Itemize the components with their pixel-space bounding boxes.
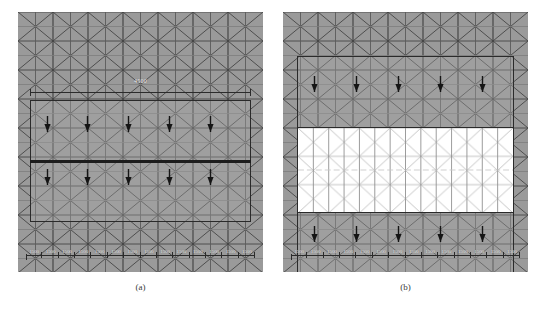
panel-b: 1500 1500 1500 1500 1500 1500 1500 1500 … [283, 12, 528, 272]
panel-caption-b: (b) [283, 282, 528, 292]
dimension-label: 1500 [422, 249, 438, 254]
dimension-label: 1500 [471, 249, 487, 254]
dimension-chain-cells-a: 1500 1500 1500 1500 1500 1500 1500 1500 … [26, 249, 255, 254]
dimension-label: 1500 [487, 249, 503, 254]
load-arrow-down [395, 76, 402, 92]
dimension-label: 1500 [389, 249, 405, 254]
region-loaded-strip-upper-b [297, 56, 514, 128]
dimension-label: 1500 [291, 249, 307, 254]
dimension-label: 1500 [190, 249, 206, 254]
load-arrow-down [207, 169, 214, 185]
dimension-chain-a: 1500 1500 1500 1500 1500 1500 1500 1500 … [26, 244, 255, 258]
dimension-label: 1500 [504, 249, 520, 254]
dimension-label-top-a: 4500 [18, 78, 263, 84]
dimension-label: 1500 [91, 249, 107, 254]
load-arrow-down [84, 169, 91, 185]
load-arrow-down [84, 116, 91, 132]
dimension-label: 1500 [222, 249, 238, 254]
load-arrow-down [437, 226, 444, 242]
dimension-label: 1500 [206, 249, 222, 254]
dimension-label: 1500 [406, 249, 422, 254]
dimension-chain-cells-b: 1500 1500 1500 1500 1500 1500 1500 1500 … [291, 249, 520, 254]
load-arrow-down [125, 169, 132, 185]
region-highlighted-core-b [297, 127, 514, 213]
load-arrow-down [353, 226, 360, 242]
dimension-line-top-a [30, 92, 251, 93]
load-arrow-down [437, 76, 444, 92]
load-arrow-down [44, 116, 51, 132]
dimension-label: 1500 [307, 249, 323, 254]
dimension-label: 1500 [141, 249, 157, 254]
load-arrow-down [353, 76, 360, 92]
dimension-label: 1500 [124, 249, 140, 254]
dimension-label: 1500 [373, 249, 389, 254]
dimension-label: 1500 [157, 249, 173, 254]
dimension-label: 1500 [356, 249, 372, 254]
load-arrow-down [166, 169, 173, 185]
dimension-label: 1500 [173, 249, 189, 254]
dimension-chain-line [291, 255, 520, 256]
dimension-label: 1500 [42, 249, 58, 254]
load-arrow-down [395, 226, 402, 242]
panel-caption-a: (a) [18, 282, 263, 292]
dimension-label: 1500 [455, 249, 471, 254]
load-arrow-down [207, 116, 214, 132]
region-loaded-strip-lower-b [297, 212, 514, 272]
region-divider-a [30, 160, 251, 163]
dimension-label: 1500 [239, 249, 255, 254]
load-arrow-down [44, 169, 51, 185]
dimension-label: 1500 [108, 249, 124, 254]
figure-container: 4500 [0, 0, 538, 319]
core-mesh-lines-b [298, 128, 513, 212]
dimension-label: 1500 [26, 249, 42, 254]
dimension-label: 1500 [75, 249, 91, 254]
load-arrow-down [311, 76, 318, 92]
dimension-chain-b: 1500 1500 1500 1500 1500 1500 1500 1500 … [291, 244, 520, 258]
load-arrow-down [479, 76, 486, 92]
dimension-chain-line [26, 255, 255, 256]
load-arrow-down [166, 116, 173, 132]
dimension-label: 1500 [59, 249, 75, 254]
load-arrow-down [125, 116, 132, 132]
dimension-label: 1500 [340, 249, 356, 254]
panel-a: 4500 [18, 12, 263, 272]
load-arrow-down [311, 226, 318, 242]
dimension-label: 1500 [438, 249, 454, 254]
load-arrow-down [479, 226, 486, 242]
mesh-a: 4500 [18, 12, 263, 272]
mesh-b: 1500 1500 1500 1500 1500 1500 1500 1500 … [283, 12, 528, 272]
dimension-label: 1500 [324, 249, 340, 254]
